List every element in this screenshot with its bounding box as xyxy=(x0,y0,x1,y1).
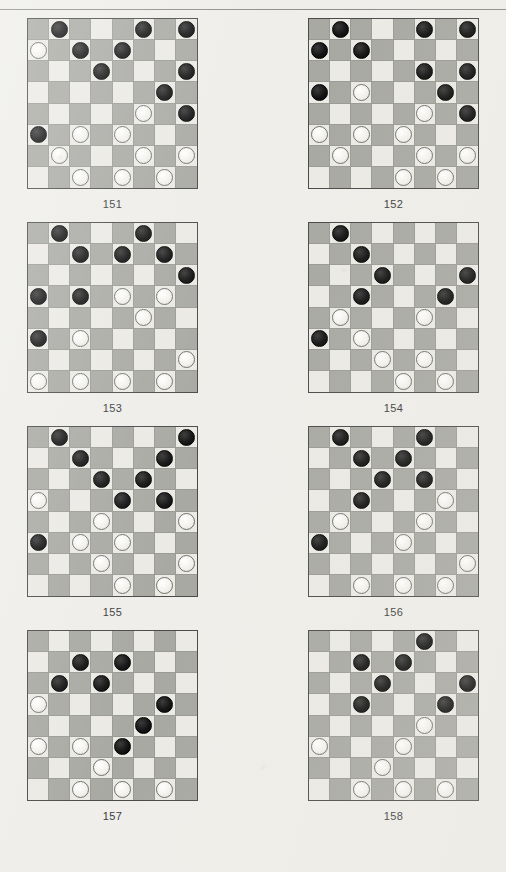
board-square[interactable] xyxy=(457,533,478,554)
board-square[interactable] xyxy=(176,554,197,575)
white-piece[interactable] xyxy=(93,513,110,530)
black-piece[interactable] xyxy=(135,225,152,242)
white-piece[interactable] xyxy=(72,126,89,143)
board-square[interactable] xyxy=(415,554,436,575)
board-square[interactable] xyxy=(49,490,70,511)
white-piece[interactable] xyxy=(353,781,370,798)
board-square[interactable] xyxy=(415,265,436,286)
board-square[interactable] xyxy=(134,329,155,350)
black-piece[interactable] xyxy=(114,42,131,59)
board-square[interactable] xyxy=(176,104,197,125)
black-piece[interactable] xyxy=(353,654,370,671)
board-square[interactable] xyxy=(91,652,112,673)
board-square[interactable] xyxy=(91,308,112,329)
board-square[interactable] xyxy=(309,350,330,371)
board-square[interactable] xyxy=(436,554,457,575)
white-piece[interactable] xyxy=(30,738,47,755)
board-square[interactable] xyxy=(436,758,457,779)
board-square[interactable] xyxy=(49,737,70,758)
board-square[interactable] xyxy=(351,737,372,758)
black-piece[interactable] xyxy=(395,450,412,467)
board-square[interactable] xyxy=(176,167,197,188)
board-square[interactable] xyxy=(330,490,351,511)
board-square[interactable] xyxy=(70,371,91,392)
board-square[interactable] xyxy=(155,716,176,737)
board-square[interactable] xyxy=(113,469,134,490)
board-square[interactable] xyxy=(49,125,70,146)
board-square[interactable] xyxy=(176,512,197,533)
board-square[interactable] xyxy=(415,371,436,392)
board-square[interactable] xyxy=(309,554,330,575)
board-square[interactable] xyxy=(91,371,112,392)
board-square[interactable] xyxy=(436,61,457,82)
black-piece[interactable] xyxy=(353,246,370,263)
board-square[interactable] xyxy=(49,673,70,694)
board-square[interactable] xyxy=(351,308,372,329)
board-square[interactable] xyxy=(155,265,176,286)
board-square[interactable] xyxy=(28,652,49,673)
board-square[interactable] xyxy=(49,244,70,265)
board-square[interactable] xyxy=(49,533,70,554)
board-square[interactable] xyxy=(91,82,112,103)
board-square[interactable] xyxy=(436,265,457,286)
board-square[interactable] xyxy=(28,512,49,533)
board-square[interactable] xyxy=(330,533,351,554)
board-square[interactable] xyxy=(91,286,112,307)
board-square[interactable] xyxy=(351,244,372,265)
board-square[interactable] xyxy=(394,329,415,350)
white-piece[interactable] xyxy=(395,781,412,798)
board-square[interactable] xyxy=(49,758,70,779)
board-square[interactable] xyxy=(394,125,415,146)
board-square[interactable] xyxy=(351,104,372,125)
board-square[interactable] xyxy=(351,694,372,715)
board-square[interactable] xyxy=(28,167,49,188)
board-square[interactable] xyxy=(309,469,330,490)
board-square[interactable] xyxy=(351,631,372,652)
board-square[interactable] xyxy=(415,512,436,533)
board-square[interactable] xyxy=(91,223,112,244)
board-square[interactable] xyxy=(91,146,112,167)
board-square[interactable] xyxy=(457,82,478,103)
board-square[interactable] xyxy=(176,631,197,652)
board-square[interactable] xyxy=(113,61,134,82)
board-square[interactable] xyxy=(372,779,393,800)
board-square[interactable] xyxy=(415,19,436,40)
white-piece[interactable] xyxy=(156,373,173,390)
board-square[interactable] xyxy=(309,631,330,652)
board-square[interactable] xyxy=(176,758,197,779)
board-square[interactable] xyxy=(155,223,176,244)
board-square[interactable] xyxy=(457,244,478,265)
board-square[interactable] xyxy=(436,329,457,350)
board-square[interactable] xyxy=(330,19,351,40)
board-square[interactable] xyxy=(91,61,112,82)
black-piece[interactable] xyxy=(72,246,89,263)
board-square[interactable] xyxy=(134,652,155,673)
board-square[interactable] xyxy=(415,125,436,146)
black-piece[interactable] xyxy=(156,450,173,467)
board-square[interactable] xyxy=(70,469,91,490)
board-square[interactable] xyxy=(351,758,372,779)
checkerboard-152[interactable] xyxy=(308,18,479,189)
board-square[interactable] xyxy=(372,329,393,350)
board-square[interactable] xyxy=(330,448,351,469)
board-square[interactable] xyxy=(113,104,134,125)
board-square[interactable] xyxy=(28,469,49,490)
board-square[interactable] xyxy=(28,575,49,596)
board-square[interactable] xyxy=(415,779,436,800)
board-square[interactable] xyxy=(49,779,70,800)
board-square[interactable] xyxy=(176,469,197,490)
board-square[interactable] xyxy=(134,19,155,40)
board-square[interactable] xyxy=(28,758,49,779)
black-piece[interactable] xyxy=(93,471,110,488)
board-square[interactable] xyxy=(372,61,393,82)
board-square[interactable] xyxy=(330,350,351,371)
black-piece[interactable] xyxy=(114,654,131,671)
white-piece[interactable] xyxy=(353,330,370,347)
white-piece[interactable] xyxy=(437,577,454,594)
white-piece[interactable] xyxy=(332,513,349,530)
board-square[interactable] xyxy=(176,673,197,694)
board-square[interactable] xyxy=(457,427,478,448)
white-piece[interactable] xyxy=(72,373,89,390)
board-square[interactable] xyxy=(436,371,457,392)
board-square[interactable] xyxy=(457,469,478,490)
